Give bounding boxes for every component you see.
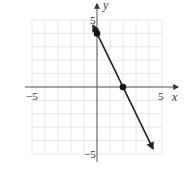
- coordinate-plane: x y −5 5 5 −5: [0, 0, 190, 170]
- x-max-tick-label: 5: [158, 90, 164, 102]
- data-point: [120, 84, 127, 91]
- x-axis-label: x: [171, 90, 178, 104]
- y-max-tick-label: 5: [90, 14, 96, 26]
- y-axis-label: y: [102, 0, 109, 12]
- data-point: [94, 30, 101, 37]
- y-min-tick-label: −5: [84, 148, 96, 160]
- x-min-tick-label: −5: [26, 90, 38, 102]
